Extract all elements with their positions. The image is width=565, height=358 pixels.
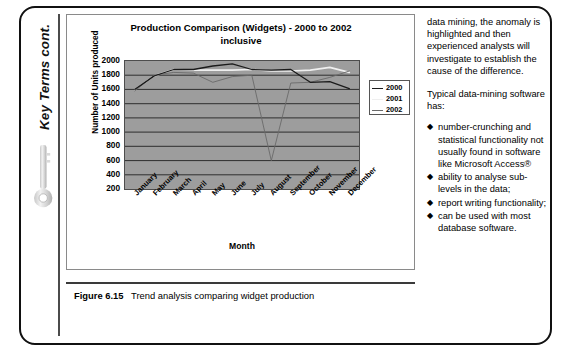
- body-text-column: data mining, the anomaly is highlighted …: [427, 16, 549, 235]
- y-tick-label: 1800: [80, 70, 120, 78]
- list-item: ◆can be used with most database software…: [427, 210, 549, 234]
- legend-item-2002: 2002: [372, 105, 409, 115]
- legend-item-2000: 2000: [372, 83, 409, 93]
- y-tick-label: 400: [80, 170, 120, 178]
- plot-area: [124, 60, 360, 190]
- paragraph-anomaly: data mining, the anomaly is highlighted …: [427, 16, 549, 77]
- y-tick-label: 1200: [80, 113, 120, 121]
- list-item-label: number-crunching and statistical functio…: [438, 122, 543, 169]
- y-tick-label: 1400: [80, 99, 120, 107]
- list-item: ◆number-crunching and statistical functi…: [427, 121, 549, 170]
- list-item-label: can be used with most database software.: [438, 211, 531, 233]
- chart-legend: 200020012002: [369, 80, 410, 115]
- figure-caption-text: Trend analysis comparing widget producti…: [131, 290, 314, 301]
- bullet-diamond-icon: ◆: [427, 121, 433, 133]
- list-item: ◆ability to analyse sub-levels in the da…: [427, 171, 549, 195]
- key-icon: [30, 143, 56, 217]
- rail-divider: [58, 14, 60, 336]
- y-tick-label: 1000: [80, 127, 120, 135]
- y-tick-label: 800: [80, 141, 120, 149]
- key-terms-label: Key Terms cont.: [30, 12, 60, 142]
- paragraph-typical-software: Typical data-mining software has:: [427, 88, 549, 112]
- y-tick-label: 200: [80, 184, 120, 192]
- y-tick-label: 600: [80, 156, 120, 164]
- legend-swatch-icon: [372, 99, 383, 100]
- list-item: ◆report writing functionality;: [427, 197, 549, 209]
- figure-caption: Figure 6.15 Trend analysis comparing wid…: [74, 290, 424, 301]
- bullet-diamond-icon: ◆: [427, 210, 433, 222]
- caption-divider: [66, 282, 415, 284]
- legend-item-2001: 2001: [372, 94, 409, 104]
- y-tick-label: 2000: [80, 56, 120, 64]
- legend-label: 2001: [386, 94, 402, 104]
- bullet-diamond-icon: ◆: [427, 197, 433, 209]
- legend-label: 2002: [386, 105, 402, 115]
- legend-swatch-icon: [372, 88, 383, 89]
- x-axis-title: Month: [124, 241, 360, 251]
- figure-caption-number: Figure 6.15: [74, 290, 124, 301]
- chart-figure: Production Comparison (Widgets) - 2000 t…: [66, 14, 415, 270]
- series-lines: [125, 61, 359, 189]
- list-item-label: ability to analyse sub-levels in the dat…: [438, 172, 527, 194]
- legend-label: 2000: [386, 83, 402, 93]
- bullet-diamond-icon: ◆: [427, 171, 433, 183]
- page-root: Key Terms cont.: [0, 0, 565, 358]
- software-features-list: ◆number-crunching and statistical functi…: [427, 121, 549, 234]
- key-terms-rail: Key Terms cont.: [24, 10, 60, 340]
- x-axis-tick-labels: JanuaryFebruaryMarchAprilMayJuneJulyAugu…: [124, 191, 360, 247]
- y-tick-label: 1600: [80, 84, 120, 92]
- legend-swatch-icon: [372, 110, 383, 111]
- list-item-label: report writing functionality;: [438, 198, 546, 208]
